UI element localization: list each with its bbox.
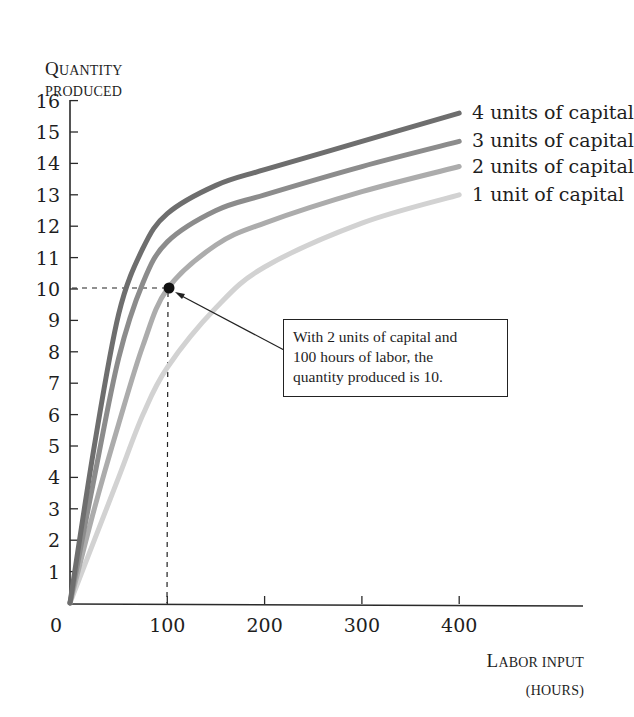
x-tick-label: 200 [246,614,282,636]
curve-label: 2 units of capital [472,155,634,177]
x-tick-label: 400 [441,614,477,636]
y-tick-label: 15 [36,121,60,143]
x-tick-labels: 0100200300400 [50,614,477,636]
y-tick-label: 1 [48,561,60,583]
annotation-arrow [175,292,284,350]
y-tick-label: 9 [48,309,60,331]
annotation-box: With 2 units of capital and 100 hours of… [283,319,508,397]
x-axis-title-rest: ABOR INPUT [498,655,584,670]
y-tick-label: 6 [48,404,60,426]
x-axis-title-initial: L [487,650,499,671]
y-tick-label: 10 [36,278,60,300]
curve-label: 3 units of capital [472,129,634,151]
curve-labels: 4 units of capital3 units of capital2 un… [472,101,634,205]
y-tick-label: 7 [48,372,60,394]
curve-label: 4 units of capital [472,101,634,123]
x-axis-title-line2: (HOURS) [526,683,584,699]
x-ticks [167,596,459,604]
x-tick-label: 0 [50,614,62,636]
highlight-point [164,283,175,294]
x-tick-label: 100 [149,614,185,636]
curve-label: 1 unit of capital [472,183,624,205]
x-tick-label: 300 [344,614,380,636]
annotation-line-3: quantity produced is 10. [293,367,498,387]
y-tick-label: 13 [36,184,60,206]
y-tick-label: 14 [36,152,60,174]
x-axis-title-line1: LABOR INPUT [487,650,584,672]
y-tick-label: 3 [48,498,60,520]
y-tick-labels: 12345678910111213141516 [36,90,60,583]
annotation-line-1: With 2 units of capital and [293,327,498,347]
y-tick-label: 5 [48,435,60,457]
y-tick-label: 2 [48,529,60,551]
y-tick-label: 12 [36,215,60,237]
y-ticks [70,101,78,572]
guide-vertical-l100 [167,292,168,603]
y-tick-label: 8 [48,341,60,363]
x-axis-line [69,604,583,606]
annotation-line-2: 100 hours of labor, the [293,347,498,367]
y-tick-label: 11 [36,247,60,269]
y-tick-label: 16 [36,90,60,112]
y-tick-label: 4 [48,466,60,488]
